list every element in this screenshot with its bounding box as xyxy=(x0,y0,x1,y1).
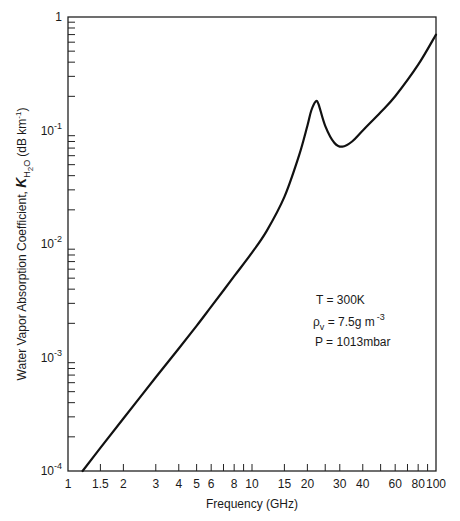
plot-border xyxy=(68,17,436,471)
x-tick-label: 80 xyxy=(411,477,425,491)
x-tick-label: 3 xyxy=(152,477,159,491)
temperature-label: T = 300K xyxy=(316,293,365,307)
y-tick-label: 1 xyxy=(55,10,62,24)
x-tick-label: 40 xyxy=(356,477,370,491)
x-tick-label: 100 xyxy=(426,477,446,491)
density-label: ρv = 7.5g m-3 xyxy=(313,312,385,332)
x-tick-label: 2 xyxy=(120,477,127,491)
pressure-label: P = 1013mbar xyxy=(315,335,391,349)
y-tick-label: 10-3 xyxy=(41,348,62,365)
svg-text:Water Vapor Absorption Coeffic: Water Vapor Absorption Coefficient, KH2O… xyxy=(13,108,35,381)
y-tick-label: 10-1 xyxy=(41,121,62,138)
x-tick-label: 6 xyxy=(208,477,215,491)
x-tick-label: 8 xyxy=(231,477,238,491)
x-tick-label: 30 xyxy=(333,477,347,491)
x-tick-label: 5 xyxy=(193,477,200,491)
y-tick-label: 10-4 xyxy=(41,461,62,478)
x-axis-title: Frequency (GHz) xyxy=(206,497,298,511)
absorption-curve xyxy=(83,35,436,471)
x-axis-ticks: 11.523456810152030406080100 xyxy=(65,464,447,491)
absorption-chart: 10-410-310-210-11 11.5234568101520304060… xyxy=(0,0,460,521)
x-tick-label: 60 xyxy=(389,477,403,491)
x-tick-label: 15 xyxy=(278,477,292,491)
y-axis-title: Water Vapor Absorption Coefficient, KH2O… xyxy=(13,108,35,381)
y-tick-label: 10-2 xyxy=(41,234,62,251)
x-tick-label: 20 xyxy=(301,477,315,491)
plot-frame xyxy=(68,17,436,471)
x-tick-label: 1.5 xyxy=(92,477,109,491)
x-tick-label: 10 xyxy=(245,477,259,491)
y-axis-ticks: 10-410-310-210-11 xyxy=(41,10,75,478)
conditions-annotation: T = 300K ρv = 7.5g m-3 P = 1013mbar xyxy=(313,293,391,349)
x-tick-label: 4 xyxy=(175,477,182,491)
x-tick-label: 1 xyxy=(65,477,72,491)
